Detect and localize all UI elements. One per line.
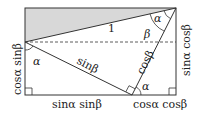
alpha-arc-left [25,46,33,50]
bottom-right-label: cosα cosβ [133,98,187,111]
alpha-arc-bottom [136,87,141,95]
alpha-left-label: α [33,55,41,68]
cos-beta-label: cosβ [134,48,157,76]
right-angle-marker-right [169,88,176,95]
right-side-label: sinα cosβ [180,24,193,76]
angle-addition-diagram: 1 α β α α sinβ cosβ cosα sinβ sinα cosβ … [0,0,201,118]
beta-top-label: β [143,28,150,41]
sin-beta-line [25,42,132,95]
alpha-bottom-label: α [142,80,150,93]
hypotenuse-label: 1 [108,22,115,35]
left-side-label: cosα sinβ [11,43,24,95]
right-angle-marker-left [25,88,32,95]
bottom-left-label: sinα sinβ [52,98,102,111]
alpha-arc-top [164,11,171,19]
alpha-top-label: α [154,12,162,25]
